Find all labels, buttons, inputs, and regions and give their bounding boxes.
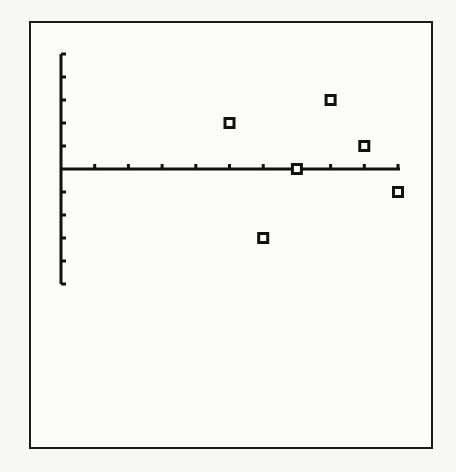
scatter-plot	[0, 0, 456, 472]
data-point-marker	[225, 119, 234, 128]
data-point-marker	[394, 188, 403, 197]
data-point-marker	[360, 142, 369, 151]
data-point-marker	[326, 96, 335, 105]
data-point-marker	[259, 234, 268, 243]
axes	[61, 54, 400, 284]
data-point-marker	[292, 165, 301, 174]
